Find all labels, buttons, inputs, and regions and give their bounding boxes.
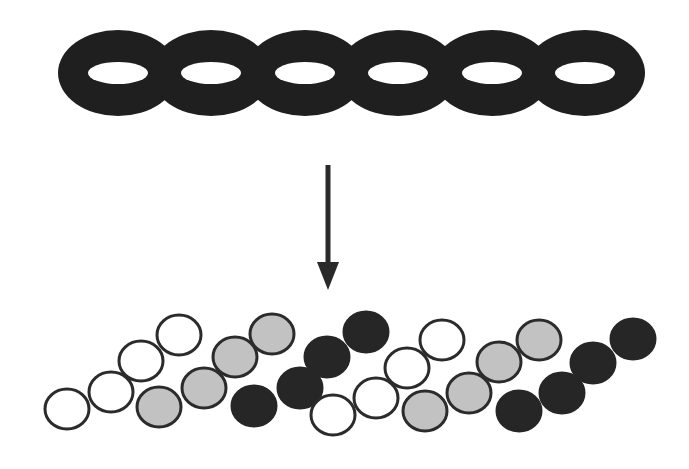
down-arrow-icon bbox=[317, 165, 339, 290]
arrow-head bbox=[317, 262, 339, 290]
disc-gray bbox=[477, 342, 521, 382]
torus-hole bbox=[368, 62, 428, 84]
disc-gray bbox=[517, 320, 561, 360]
disc-dark bbox=[232, 386, 276, 426]
disc-white bbox=[45, 389, 89, 429]
disc-white bbox=[420, 320, 464, 360]
disc-white bbox=[385, 348, 429, 388]
torus-hole bbox=[555, 62, 615, 84]
torus-hole bbox=[275, 62, 335, 84]
diagram-svg bbox=[0, 0, 689, 469]
torus-chain bbox=[58, 30, 645, 116]
disc-dark bbox=[611, 319, 655, 359]
disc-gray bbox=[213, 337, 257, 377]
disc-gray bbox=[403, 391, 447, 431]
disc-gray bbox=[250, 314, 294, 354]
diagram-canvas bbox=[0, 0, 689, 469]
disc-dark bbox=[344, 312, 388, 352]
disc-white bbox=[119, 341, 163, 381]
disc-cluster bbox=[45, 312, 655, 435]
disc-gray bbox=[182, 368, 226, 408]
disc-dark bbox=[497, 391, 541, 431]
disc-gray bbox=[447, 373, 491, 413]
torus-hole bbox=[88, 62, 148, 84]
disc-gray bbox=[137, 387, 181, 427]
disc-dark bbox=[305, 337, 349, 377]
disc-white bbox=[311, 395, 355, 435]
disc-white bbox=[89, 372, 133, 412]
disc-white bbox=[157, 315, 201, 355]
torus-hole bbox=[181, 62, 241, 84]
torus-hole bbox=[462, 62, 522, 84]
disc-dark bbox=[571, 343, 615, 383]
